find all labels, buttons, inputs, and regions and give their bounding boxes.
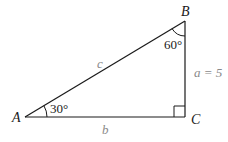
angle-label-b: 60° bbox=[164, 37, 182, 52]
vertex-label-c: C bbox=[191, 112, 201, 127]
vertex-label-b: B bbox=[181, 4, 190, 19]
side-label-c: c bbox=[97, 56, 103, 71]
angle-arc-b bbox=[172, 29, 185, 36]
angle-arc-a bbox=[44, 106, 47, 117]
angle-label-a: 30° bbox=[50, 101, 68, 116]
side-label-b: b bbox=[102, 122, 109, 137]
triangle-diagram: A B C c b a = 5 30° 60° bbox=[0, 0, 228, 142]
side-c-hypotenuse bbox=[25, 21, 185, 117]
vertex-label-a: A bbox=[11, 110, 21, 125]
side-label-a: a = 5 bbox=[194, 65, 223, 80]
right-angle-marker bbox=[174, 106, 185, 117]
